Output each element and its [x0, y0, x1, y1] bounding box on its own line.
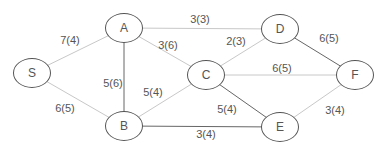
graph-diagram: 7(4)6(5)3(3)3(6)5(6)5(4)3(4)2(3)6(5)5(4)…: [0, 0, 383, 148]
edge-label-a-b: 5(6): [103, 77, 123, 89]
node-c: C: [187, 60, 225, 90]
edge-label-a-c: 3(6): [158, 39, 178, 51]
node-label: S: [28, 66, 36, 80]
edge-label-b-e: 3(4): [196, 128, 216, 140]
node-label: C: [202, 68, 211, 82]
node-label: A: [120, 21, 128, 35]
edge-label-s-a: 7(4): [60, 34, 80, 46]
node-label: B: [120, 119, 128, 133]
node-f: F: [336, 60, 374, 90]
node-s: S: [13, 58, 51, 88]
node-label: F: [351, 68, 358, 82]
node-e: E: [261, 112, 299, 142]
node-label: E: [276, 120, 284, 134]
edge-label-d-f: 6(5): [319, 32, 339, 44]
node-b: B: [105, 111, 143, 141]
node-label: D: [276, 22, 285, 36]
edge-a-d: [124, 28, 280, 29]
edge-label-a-d: 3(3): [190, 13, 210, 25]
edge-label-b-c: 5(4): [143, 86, 163, 98]
node-d: D: [261, 14, 299, 44]
edge-label-e-f: 3(4): [325, 104, 345, 116]
edge-label-s-b: 6(5): [55, 102, 75, 114]
edge-label-c-d: 2(3): [226, 35, 246, 47]
node-a: A: [105, 13, 143, 43]
edge-label-c-f: 6(5): [272, 62, 292, 74]
edge-label-c-e: 5(4): [217, 103, 237, 115]
edge-b-e: [124, 126, 280, 127]
